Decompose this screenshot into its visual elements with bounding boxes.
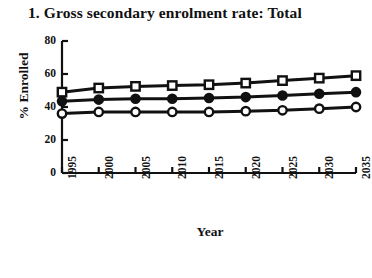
data-point-open-circle [58,109,66,117]
x-tick-label: 2035 [361,156,372,179]
x-tick-label: 2025 [288,156,300,179]
data-point-open-square [205,81,213,89]
data-point-open-circle [315,104,323,112]
x-tick-label: 2010 [177,156,189,179]
data-point-filled-circle [278,91,286,99]
data-point-open-circle [352,103,360,111]
data-point-filled-circle [352,88,360,96]
data-point-open-circle [168,108,176,116]
data-point-open-circle [242,107,250,115]
data-point-filled-circle [315,90,323,98]
y-tick-label: 0 [30,167,56,179]
data-point-filled-circle [168,95,176,103]
data-point-open-circle [95,108,103,116]
y-tick-label: 40 [30,101,56,113]
data-point-filled-circle [131,95,139,103]
y-tick-label: 80 [30,35,56,47]
data-point-open-square [315,74,323,82]
x-axis-label-text: Year [197,224,224,239]
y-tick-label: 20 [30,134,56,146]
data-point-open-square [131,82,139,90]
data-point-filled-circle [95,95,103,103]
x-tick-label: 2005 [141,156,153,179]
data-point-open-circle [205,108,213,116]
x-tick-label: 1995 [67,156,79,179]
data-point-open-square [168,81,176,89]
data-series [58,103,360,118]
y-tick-label: 60 [30,68,56,80]
data-point-open-square [278,76,286,84]
data-point-filled-circle [205,94,213,102]
data-point-open-square [58,88,66,96]
chart-figure: 1. Gross secondary enrolment rate: Total… [0,0,372,278]
data-point-filled-circle [58,97,66,105]
data-point-open-circle [131,108,139,116]
x-tick-label: 2015 [214,156,226,179]
data-point-open-square [352,71,360,79]
data-series-group [58,71,360,117]
x-tick-label: 2000 [104,156,116,179]
data-point-filled-circle [242,93,250,101]
data-point-open-square [242,79,250,87]
x-axis-label: Year [0,224,372,240]
data-point-open-circle [278,106,286,114]
data-point-open-square [95,84,103,92]
x-tick-label: 2030 [324,156,336,179]
x-tick-label: 2020 [251,156,263,179]
